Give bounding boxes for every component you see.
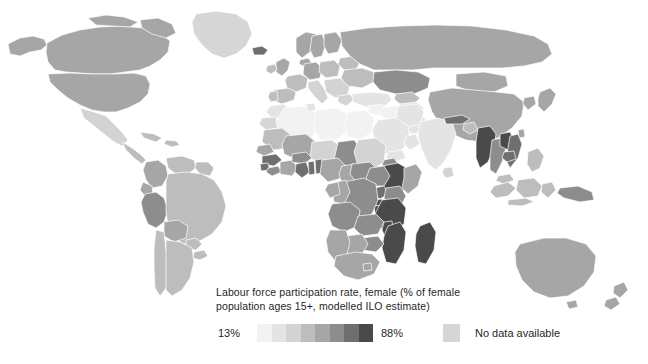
country-egypt: [345, 110, 374, 140]
country-turkey: [352, 92, 392, 107]
country-zambia: [354, 214, 384, 236]
country-alaska: [8, 36, 47, 56]
legend-title: Labour force participation rate, female …: [216, 286, 636, 313]
map-landmasses: [8, 11, 628, 310]
country-tunisia: [306, 103, 316, 112]
country-united-kingdom: [276, 58, 290, 76]
country-oman: [404, 134, 420, 150]
country-somalia: [402, 164, 422, 194]
country-sri-lanka: [442, 167, 454, 178]
country-ghana: [295, 162, 310, 178]
country-united-states: [48, 73, 150, 112]
country-lesotho: [363, 263, 372, 271]
country-portugal: [268, 91, 278, 102]
country-argentina: [166, 240, 194, 296]
country-western-sahara: [259, 117, 278, 130]
gradient-step-7: [344, 324, 359, 342]
country-madagascar: [415, 222, 436, 264]
legend-gradient-bar: [257, 324, 373, 342]
country-mexico: [80, 108, 128, 146]
country-ireland: [266, 64, 277, 74]
map-legend: Labour force participation rate, female …: [216, 286, 636, 358]
country-india: [418, 118, 456, 170]
country-canada-arctic-isles: [88, 15, 138, 27]
country-sulawesi: [541, 182, 556, 198]
world-map-figure: Labour force participation rate, female …: [0, 0, 648, 364]
country-japan: [538, 88, 556, 112]
gradient-step-8: [359, 324, 374, 342]
country-papua-new-guinea: [557, 186, 594, 202]
country-togo: [308, 161, 315, 175]
legend-scale-row: 13% 88% No data available: [216, 322, 636, 344]
country-libya: [314, 108, 348, 140]
country-cuba: [140, 132, 162, 142]
country-venezuela: [166, 156, 196, 174]
country-hispaniola: [164, 140, 180, 147]
legend-no-data-swatch: [443, 324, 460, 342]
country-uruguay: [193, 250, 208, 260]
gradient-step-5: [315, 324, 330, 342]
country-iceland: [252, 46, 268, 55]
country-korea: [523, 96, 536, 110]
country-south-africa: [334, 252, 380, 280]
legend-scale-max-label: 88%: [381, 322, 415, 344]
country-greece: [338, 94, 354, 106]
country-russia: [340, 25, 552, 70]
gradient-step-4: [301, 324, 316, 342]
country-borneo: [516, 178, 542, 198]
country-central-america: [122, 142, 146, 164]
gradient-step-3: [286, 324, 301, 342]
legend-scale-min-label: 13%: [218, 322, 254, 344]
legend-no-data-label: No data available: [475, 327, 560, 339]
gradient-step-1: [257, 324, 272, 342]
country-kazakhstan: [373, 70, 430, 94]
country-finland: [324, 32, 342, 54]
gradient-step-6: [330, 324, 345, 342]
country-poland: [319, 60, 340, 78]
country-philippines: [527, 148, 544, 172]
gradient-step-2: [272, 324, 287, 342]
country-greenland: [192, 11, 252, 58]
country-sweden: [310, 34, 326, 58]
country-java: [508, 198, 534, 206]
country-sumatra: [490, 182, 516, 198]
legend-no-data-group: No data available: [443, 324, 560, 342]
